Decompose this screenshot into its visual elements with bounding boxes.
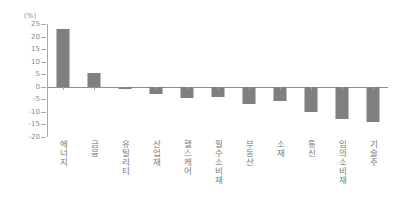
x-axis-labels: 에너지금융유틸리티산업재헬스케어필수소비재부동산소재통신임의소비재기술주 — [47, 140, 388, 209]
bar[interactable] — [87, 73, 100, 87]
y-tick-mark — [41, 37, 46, 38]
x-axis-category-label: 에너지 — [58, 140, 67, 167]
bar[interactable] — [335, 87, 348, 120]
bar-slot[interactable] — [140, 24, 171, 137]
x-tick-mark — [342, 87, 343, 90]
y-axis-unit-label: (%) — [24, 12, 36, 20]
x-tick-mark — [249, 87, 250, 90]
bar-slot[interactable] — [233, 24, 264, 137]
x-label-slot: 소재 — [264, 140, 295, 209]
y-tick-mark — [41, 112, 46, 113]
y-tick-label: -10 — [14, 108, 40, 116]
y-tick-label: 0 — [14, 83, 40, 91]
bar[interactable] — [304, 87, 317, 112]
y-tick-mark — [41, 124, 46, 125]
x-tick-mark — [125, 87, 126, 90]
y-tick-mark — [41, 24, 46, 25]
bar-slot[interactable] — [357, 24, 388, 137]
bar-slot[interactable] — [47, 24, 78, 137]
x-tick-mark — [311, 87, 312, 90]
x-label-slot: 임의소비재 — [326, 140, 357, 209]
bar-slot[interactable] — [171, 24, 202, 137]
x-label-slot: 유틸리티 — [109, 140, 140, 209]
bar-slot[interactable] — [109, 24, 140, 137]
x-label-slot: 기술주 — [357, 140, 388, 209]
bar[interactable] — [366, 87, 379, 122]
bar-slot[interactable] — [78, 24, 109, 137]
x-axis-category-label: 통신 — [306, 140, 315, 158]
x-tick-mark — [156, 87, 157, 90]
y-tick-mark — [41, 99, 46, 100]
x-tick-mark — [94, 87, 95, 90]
x-label-slot: 부동산 — [233, 140, 264, 209]
x-axis-category-label: 부동산 — [244, 140, 253, 167]
bar-slot[interactable] — [202, 24, 233, 137]
x-label-slot: 필수소비재 — [202, 140, 233, 209]
x-tick-mark — [187, 87, 188, 90]
y-tick-label: 15 — [14, 45, 40, 53]
y-tick-mark — [41, 137, 46, 138]
x-label-slot: 헬스케어 — [171, 140, 202, 209]
y-tick-mark — [41, 62, 46, 63]
y-tick-mark — [41, 49, 46, 50]
x-axis-category-label: 기술주 — [368, 140, 377, 167]
x-axis-category-label: 산업재 — [151, 140, 160, 167]
x-tick-mark — [373, 87, 374, 90]
x-axis-category-label: 유틸리티 — [120, 140, 129, 176]
x-tick-mark — [280, 87, 281, 90]
bar[interactable] — [56, 29, 69, 87]
bar-slot[interactable] — [295, 24, 326, 137]
x-axis-category-label: 헬스케어 — [182, 140, 191, 176]
y-tick-mark — [41, 87, 46, 88]
y-tick-label: 5 — [14, 70, 40, 78]
x-label-slot: 금융 — [78, 140, 109, 209]
y-tick-mark — [41, 74, 46, 75]
x-label-slot: 에너지 — [47, 140, 78, 209]
x-axis-category-label: 필수소비재 — [213, 140, 222, 185]
y-tick-label: -15 — [14, 120, 40, 128]
x-axis-category-label: 소재 — [275, 140, 284, 158]
y-tick-label: -5 — [14, 95, 40, 103]
y-tick-label: 10 — [14, 58, 40, 66]
bars-layer — [47, 24, 388, 137]
x-axis-category-label: 금융 — [89, 140, 98, 158]
bar-slot[interactable] — [264, 24, 295, 137]
x-label-slot: 통신 — [295, 140, 326, 209]
y-tick-label: -20 — [14, 133, 40, 141]
x-tick-mark — [63, 87, 64, 90]
y-tick-label: 20 — [14, 33, 40, 41]
bar-slot[interactable] — [326, 24, 357, 137]
sector-performance-bar-chart: (%) 2520151050-5-10-15-20 에너지금융유틸리티산업재헬스… — [0, 0, 399, 209]
x-axis-category-label: 임의소비재 — [337, 140, 346, 185]
y-tick-label: 25 — [14, 20, 40, 28]
x-label-slot: 산업재 — [140, 140, 171, 209]
x-tick-mark — [218, 87, 219, 90]
